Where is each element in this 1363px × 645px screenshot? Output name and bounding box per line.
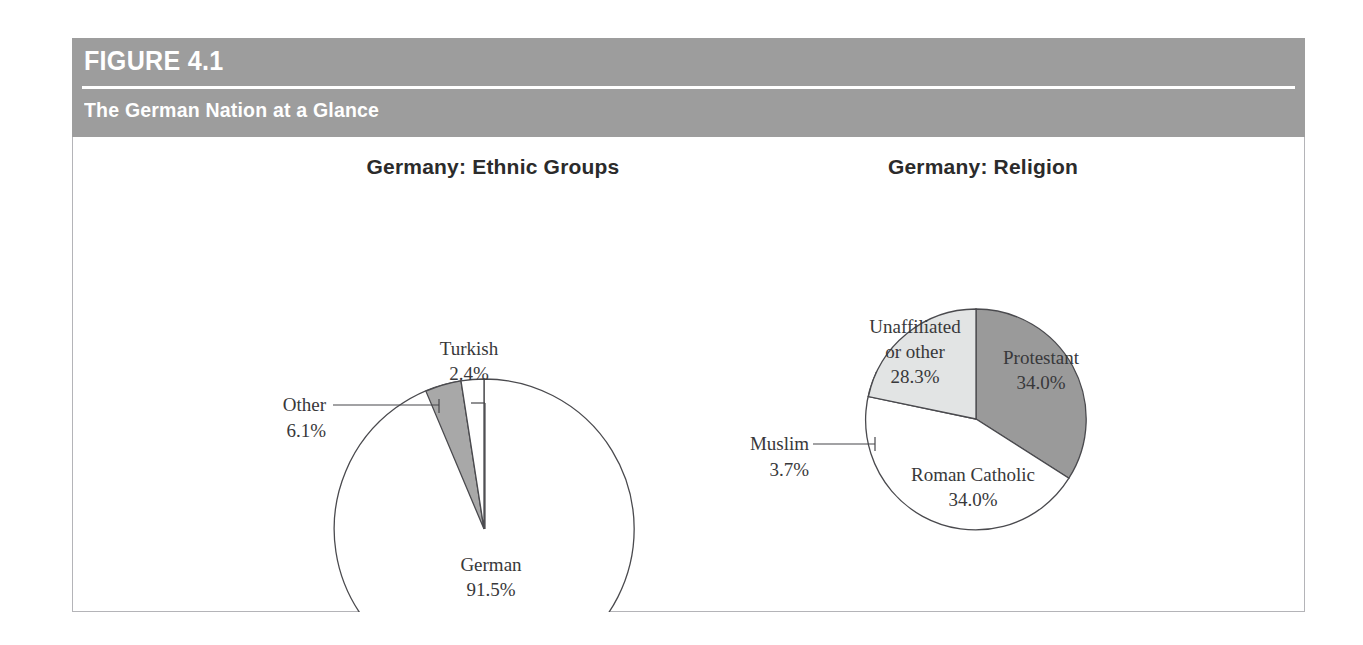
pie-label-german-value: 91.5% — [466, 579, 515, 600]
figure-body-panel: Germany: Ethnic Groups Turkish — [72, 137, 1305, 612]
pie-label-unaffiliated-line2: or other — [885, 341, 945, 362]
pie-label-german-name: German — [460, 554, 522, 575]
pie-label-unaffiliated-value: 28.3% — [890, 366, 939, 387]
header-divider-rule — [82, 86, 1295, 89]
pie-label-other-name: Other — [283, 394, 327, 415]
figure-header-band: FIGURE 4.1 The German Nation at a Glance — [72, 38, 1305, 137]
pie-label-protestant-name: Protestant — [1003, 347, 1080, 368]
figure-subtitle: The German Nation at a Glance — [84, 95, 379, 125]
pie-label-roman-catholic-value: 34.0% — [948, 489, 997, 510]
figure-number: FIGURE 4.1 — [84, 44, 224, 78]
pie-label-turkish-value: 2.4% — [449, 363, 489, 384]
chart-religion: Germany: Religion Protestant 34. — [723, 137, 1243, 612]
pie-label-other-value: 6.1% — [286, 420, 326, 441]
pie-label-muslim-value: 3.7% — [769, 459, 809, 480]
pie-chart-ethnic-svg: Turkish 2.4% Other 6.1% German 91.5% — [223, 137, 763, 612]
pie-chart-religion-svg: Protestant 34.0% Unaffiliated or other 2… — [723, 137, 1243, 612]
pie-label-roman-catholic-name: Roman Catholic — [911, 464, 1035, 485]
charts-row: Germany: Ethnic Groups Turkish — [73, 137, 1304, 611]
figure-container: FIGURE 4.1 The German Nation at a Glance… — [72, 38, 1305, 612]
pie-label-muslim-name: Muslim — [750, 433, 809, 454]
pie-label-turkish-name: Turkish — [440, 338, 499, 359]
pie-label-unaffiliated-line1: Unaffiliated — [869, 316, 961, 337]
chart-ethnic-groups: Germany: Ethnic Groups Turkish — [223, 137, 763, 612]
pie-label-protestant-value: 34.0% — [1016, 372, 1065, 393]
